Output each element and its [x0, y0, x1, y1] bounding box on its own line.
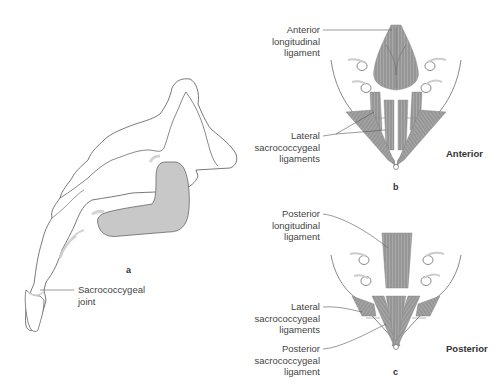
label-lateral-sacrococcygeal-ligaments-posterior: Lateral sacrococcygeal ligaments [240, 301, 320, 336]
panel-letter-c: c [393, 367, 398, 377]
view-title-anterior: Anterior [446, 148, 483, 159]
panel-b-anterior-sacrum [323, 25, 461, 170]
panel-letter-b: b [393, 182, 399, 192]
view-title-posterior: Posterior [446, 343, 488, 354]
sacrococcygeal-ligaments-figure: Sacrococcygeal joint a Anterior longitud… [0, 0, 503, 385]
label-anterior-longitudinal-ligament: Anterior longitudinal ligament [255, 24, 320, 59]
panel-c-posterior-sacrum [323, 214, 461, 350]
panel-letter-a: a [126, 265, 131, 275]
label-lateral-sacrococcygeal-ligaments-anterior: Lateral sacrococcygeal ligaments [240, 130, 320, 165]
label-posterior-longitudinal-ligament: Posterior longitudinal ligament [255, 208, 320, 243]
label-posterior-sacrococcygeal-ligament: Posterior sacrococcygeal ligament [240, 343, 320, 378]
label-sacrococcygeal-joint: Sacrococcygeal joint [78, 284, 145, 307]
